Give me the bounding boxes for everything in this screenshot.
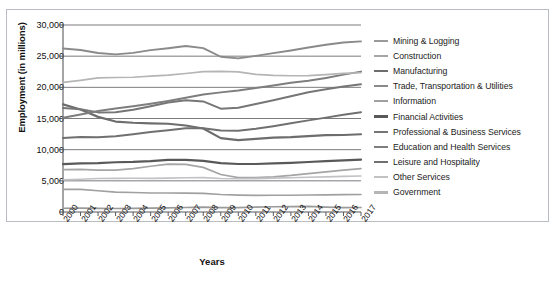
- legend-swatch-icon: [374, 191, 388, 193]
- series-line: [63, 72, 361, 118]
- legend-swatch-icon: [374, 161, 388, 163]
- legend-item[interactable]: Professional & Business Services: [374, 124, 544, 139]
- legend-item[interactable]: Manufacturing: [374, 63, 544, 78]
- legend-label: Professional & Business Services: [393, 127, 521, 137]
- legend-label: Manufacturing: [393, 66, 447, 76]
- series-line: [63, 160, 361, 164]
- legend-item[interactable]: Leisure and Hospitality: [374, 155, 544, 170]
- legend-item[interactable]: Education and Health Services: [374, 139, 544, 154]
- series-line: [63, 164, 361, 178]
- legend-swatch-icon: [374, 176, 388, 178]
- legend-swatch-icon: [374, 85, 388, 87]
- chart-legend: Mining & LoggingConstructionManufacturin…: [374, 33, 544, 200]
- legend-label: Mining & Logging: [393, 36, 459, 46]
- legend-label: Information: [393, 96, 436, 106]
- series-line: [63, 84, 361, 112]
- legend-label: Leisure and Hospitality: [393, 157, 480, 167]
- legend-item[interactable]: Financial Activities: [374, 109, 544, 124]
- legend-swatch-icon: [374, 40, 388, 42]
- legend-swatch-icon: [374, 100, 388, 102]
- legend-label: Education and Health Services: [393, 142, 510, 152]
- legend-swatch-icon: [374, 146, 388, 148]
- legend-item[interactable]: Construction: [374, 48, 544, 63]
- series-line: [63, 189, 361, 195]
- legend-swatch-icon: [374, 115, 388, 117]
- x-axis-title: Years: [62, 256, 362, 267]
- legend-swatch-icon: [374, 70, 388, 72]
- legend-item[interactable]: Information: [374, 94, 544, 109]
- legend-item[interactable]: Other Services: [374, 170, 544, 185]
- legend-label: Financial Activities: [393, 112, 463, 122]
- chart-container: Employment (in millions) 05,00010,00015,…: [0, 0, 556, 287]
- series-line: [63, 176, 361, 180]
- series-line: [63, 71, 361, 82]
- legend-label: Construction: [393, 51, 441, 61]
- legend-label: Government: [393, 187, 440, 197]
- legend-swatch-icon: [374, 131, 388, 133]
- legend-label: Other Services: [393, 172, 450, 182]
- legend-item[interactable]: Trade, Transportation & Utilities: [374, 79, 544, 94]
- legend-label: Trade, Transportation & Utilities: [393, 81, 513, 91]
- legend-swatch-icon: [374, 55, 388, 57]
- legend-item[interactable]: Government: [374, 185, 544, 200]
- legend-item[interactable]: Mining & Logging: [374, 33, 544, 48]
